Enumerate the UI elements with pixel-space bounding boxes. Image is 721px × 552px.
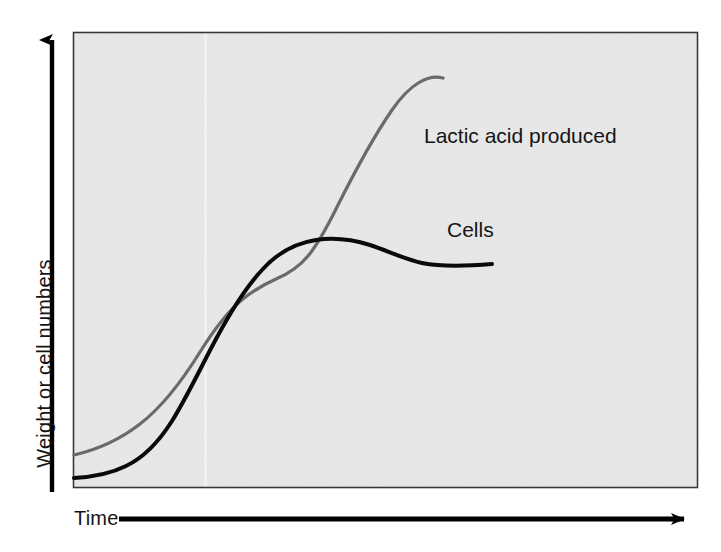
chart-svg xyxy=(0,0,721,552)
series-label-lactic-acid: Lactic acid produced xyxy=(424,124,617,148)
series-label-cells: Cells xyxy=(447,218,494,242)
x-axis-label: Time xyxy=(74,507,119,530)
plot-background-grain xyxy=(74,33,698,488)
figure-container: Weight or cell numbers Time Lactic acid … xyxy=(0,0,721,552)
y-axis-label: Weight or cell numbers xyxy=(33,244,56,484)
plot-area xyxy=(74,33,698,488)
